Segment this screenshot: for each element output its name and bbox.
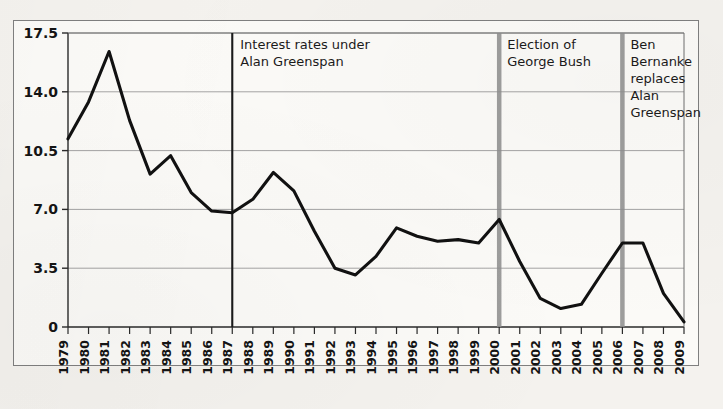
y-tick-label: 14.0 <box>23 84 58 100</box>
x-tick-label: 1990 <box>282 340 297 375</box>
annotation-text-bernanke-appointment: Ben <box>630 37 655 52</box>
x-tick-label: 1995 <box>385 340 400 375</box>
x-tick-label: 1989 <box>261 340 276 375</box>
x-tick-label: 2000 <box>487 340 502 375</box>
x-tick-label: 1996 <box>405 340 420 375</box>
y-tick-label: 10.5 <box>23 143 58 159</box>
x-tick-label: 2007 <box>631 340 646 375</box>
interest-rate-line-chart: 03.57.010.514.017.5 19791980198119821983… <box>0 0 723 409</box>
annotation-lines-group <box>232 33 622 327</box>
x-tick-label: 1979 <box>56 340 71 375</box>
annotation-text-bush-election: Election of <box>507 37 576 52</box>
x-tick-label: 1991 <box>302 340 317 375</box>
x-tick-label: 1980 <box>77 340 92 375</box>
x-tick-label: 1997 <box>426 340 441 375</box>
annotation-text-greenspan-appointment: Interest rates under <box>240 37 370 52</box>
y-axis-tick-labels: 03.57.010.514.017.5 <box>23 25 68 335</box>
x-tick-label: 2002 <box>528 340 543 375</box>
x-tick-label: 1984 <box>159 340 174 375</box>
annotation-labels-group: Interest rates underAlan GreenspanElecti… <box>240 37 701 120</box>
x-tick-label: 1994 <box>364 340 379 375</box>
x-tick-label: 2006 <box>610 340 625 375</box>
x-tick-label: 1986 <box>200 340 215 375</box>
annotation-text-bernanke-appointment: Bernanke <box>630 54 692 69</box>
x-tick-label: 2004 <box>569 340 584 375</box>
annotation-text-bernanke-appointment: replaces <box>630 71 685 86</box>
x-tick-label: 2008 <box>651 340 666 375</box>
y-tick-label: 3.5 <box>33 260 58 276</box>
x-tick-label: 2005 <box>590 340 605 375</box>
x-tick-label: 1985 <box>179 340 194 375</box>
annotation-text-greenspan-appointment: Alan Greenspan <box>240 54 343 69</box>
x-tick-label: 1982 <box>118 340 133 375</box>
x-tick-label: 2001 <box>508 340 523 375</box>
annotation-text-bernanke-appointment: Alan <box>630 88 659 103</box>
x-tick-label: 1988 <box>241 340 256 375</box>
x-tick-label: 1998 <box>446 340 461 375</box>
y-tick-label: 17.5 <box>23 25 58 41</box>
x-tick-label: 1981 <box>97 340 112 375</box>
x-tick-label: 1983 <box>138 340 153 375</box>
y-tick-label: 0 <box>48 319 58 335</box>
x-axis-tick-labels: 1979198019811982198319841985198619871988… <box>56 327 687 375</box>
x-tick-label: 1992 <box>323 340 338 375</box>
x-tick-label: 2003 <box>549 340 564 375</box>
chart-canvas: 03.57.010.514.017.5 19791980198119821983… <box>0 0 723 409</box>
axis-group <box>68 33 684 327</box>
x-tick-label: 1993 <box>343 340 358 375</box>
annotation-text-bush-election: George Bush <box>507 54 591 69</box>
x-tick-label: 2009 <box>672 340 687 375</box>
y-tick-label: 7.0 <box>33 201 58 217</box>
annotation-text-bernanke-appointment: Greenspan <box>630 105 701 120</box>
x-tick-label: 1999 <box>467 340 482 375</box>
x-tick-label: 1987 <box>220 340 235 375</box>
gridlines-group <box>68 33 684 268</box>
